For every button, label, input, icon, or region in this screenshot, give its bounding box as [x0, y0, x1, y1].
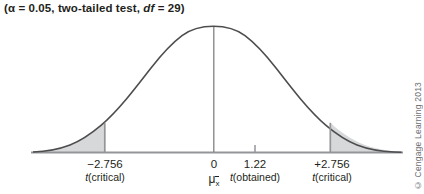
- right-critical-paren-text: (critical): [315, 171, 352, 183]
- t-obtained-paren-text: (obtained): [233, 171, 280, 183]
- t-distribution-figure: (α = 0.05, two-tailed test, df = 29) −2.…: [0, 0, 424, 194]
- left-critical-value: −2.756: [55, 158, 155, 171]
- left-critical-paren-text: (critical): [88, 171, 125, 183]
- right-critical-sublabel: t(critical): [282, 171, 382, 184]
- left-critical-label: −2.756 t(critical): [55, 158, 155, 184]
- right-critical-label: +2.756 t(critical): [282, 158, 382, 184]
- left-critical-sublabel: t(critical): [55, 171, 155, 184]
- copyright-credit: © Cengage Learning 2013: [413, 82, 423, 190]
- right-critical-value: +2.756: [282, 158, 382, 171]
- t-distribution-curve: [33, 26, 402, 152]
- left-rejection-region-shading: [33, 123, 105, 152]
